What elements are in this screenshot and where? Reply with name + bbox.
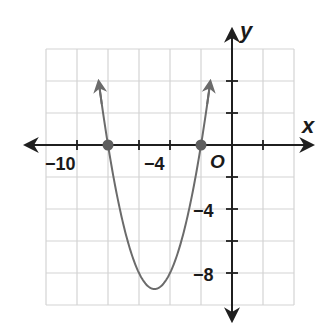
y-tick-label-neg4: −4 bbox=[193, 201, 214, 221]
origin-label: O bbox=[210, 151, 225, 172]
curve-arrow-left bbox=[99, 82, 102, 104]
x-intercept-point bbox=[196, 140, 207, 151]
grid bbox=[46, 49, 294, 305]
x-tick-label-neg10: −10 bbox=[45, 154, 76, 174]
y-axis-label: y bbox=[239, 18, 254, 43]
x-tick-label-neg4: −4 bbox=[144, 154, 165, 174]
y-tick-label-neg8: −8 bbox=[193, 265, 214, 285]
parabola-graph: y x O −10 −4 −4 −8 bbox=[0, 0, 322, 330]
curve-arrow-right bbox=[207, 82, 210, 104]
x-intercept-point bbox=[103, 140, 114, 151]
parabola-curve bbox=[99, 87, 209, 289]
x-axis-label: x bbox=[301, 113, 315, 138]
